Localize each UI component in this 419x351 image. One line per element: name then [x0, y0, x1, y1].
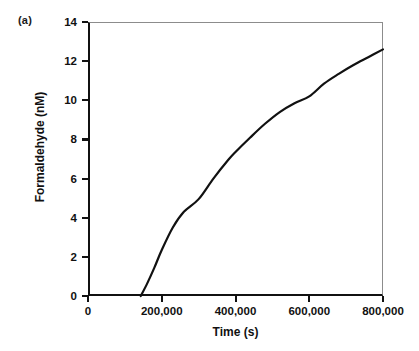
y-tick-label: 2	[71, 249, 77, 265]
x-tick-label: 200,000	[141, 305, 183, 317]
x-tick-label: 800,000	[362, 305, 404, 317]
x-axis-title: Time (s)	[88, 325, 383, 339]
y-tick-mark	[82, 138, 88, 140]
y-tick-label: 12	[64, 53, 77, 69]
formaldehyde-curve	[141, 49, 383, 296]
y-tick-label: 0	[71, 288, 77, 304]
x-tick-mark	[161, 296, 163, 302]
y-tick-mark	[82, 21, 88, 23]
y-tick-label: 8	[71, 131, 77, 147]
x-tick-mark	[235, 296, 237, 302]
x-tick-mark	[87, 296, 89, 302]
x-tick-label: 400,000	[215, 305, 257, 317]
y-tick-label: 10	[64, 92, 77, 108]
figure-panel-a: (a) 02468101214 0200,000400,000600,00080…	[0, 0, 419, 351]
y-tick-mark	[82, 60, 88, 62]
x-tick-mark	[382, 296, 384, 302]
y-tick-label: 4	[71, 210, 77, 226]
data-curve-layer	[88, 22, 383, 296]
y-tick-mark	[82, 178, 88, 180]
y-tick-label: 6	[71, 171, 77, 187]
panel-label: (a)	[18, 14, 32, 26]
y-tick-mark	[82, 99, 88, 101]
x-tick-mark	[308, 296, 310, 302]
x-tick-label: 600,000	[288, 305, 330, 317]
y-tick-label: 14	[64, 14, 77, 30]
y-axis-title: Formaldehyde (nM)	[33, 47, 47, 247]
y-tick-mark	[82, 256, 88, 258]
x-tick-label: 0	[85, 305, 91, 317]
y-tick-mark	[82, 217, 88, 219]
